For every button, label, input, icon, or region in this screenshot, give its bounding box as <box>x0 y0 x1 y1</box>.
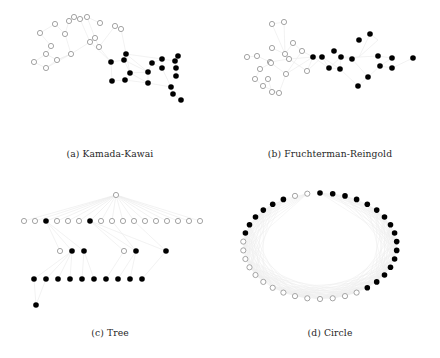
edge-layer <box>24 195 200 305</box>
edge-layer <box>247 22 413 93</box>
circle-svg <box>220 179 440 327</box>
graph-node-open <box>261 279 266 284</box>
graph-node-filled <box>374 279 380 285</box>
subfigure-kamada-kawai: (a) Kamada-Kawai <box>0 0 220 179</box>
filled-node-group <box>108 51 184 103</box>
plot-kamada-kawai <box>0 0 220 148</box>
subfigure-circle: (d) Circle <box>220 179 440 358</box>
subfigure-tree: (c) Tree <box>0 179 220 358</box>
graph-node-filled <box>247 222 253 228</box>
graph-node-filled <box>365 201 371 207</box>
graph-node-open <box>305 191 310 196</box>
caption-circle: (d) Circle <box>308 327 353 338</box>
graph-node-filled <box>253 214 259 220</box>
caption-tree: (c) Tree <box>91 327 128 338</box>
graph-node-open <box>243 256 248 261</box>
plot-fruchterman-reingold <box>220 0 440 148</box>
graph-node-filled <box>281 197 287 203</box>
kamada-kawai-svg <box>0 0 220 148</box>
graph-node-open <box>292 294 297 299</box>
graph-node-filled <box>270 201 276 207</box>
graph-node-filled <box>382 272 388 278</box>
graph-node-open <box>292 193 297 198</box>
tree-svg <box>0 179 220 327</box>
graph-node-filled <box>392 230 398 236</box>
graph-node-open <box>270 285 275 290</box>
graph-node-open <box>305 296 310 301</box>
caption-kamada-kawai: (a) Kamada-Kawai <box>67 148 154 159</box>
graph-node-filled <box>342 193 348 199</box>
fruchterman-reingold-svg <box>220 0 440 148</box>
graph-node-filled <box>374 207 380 213</box>
edge-layer <box>243 193 396 299</box>
filled-node-group <box>31 218 169 308</box>
graph-node-filled <box>394 248 400 254</box>
graph-node-open <box>342 294 347 299</box>
graph-node-open <box>281 290 286 295</box>
graph-node-open <box>253 272 258 277</box>
graph-node-filled <box>261 207 267 213</box>
graph-node-open <box>247 265 252 270</box>
graph-node-filled <box>243 230 249 236</box>
graph-node-filled <box>388 222 394 228</box>
graph-node-open <box>330 296 335 301</box>
graph-node-filled <box>382 214 388 220</box>
graph-node-open <box>354 290 359 295</box>
graph-node-filled <box>330 191 336 197</box>
graph-node-open <box>241 248 246 253</box>
graph-node-filled <box>365 285 371 291</box>
subfigure-fruchterman-reingold: (b) Fruchterman-Reingold <box>220 0 440 179</box>
graph-node-open <box>241 239 246 244</box>
graph-node-filled <box>354 197 360 203</box>
graph-node-filled <box>392 256 398 262</box>
graph-node-open <box>317 296 322 301</box>
plot-tree <box>0 179 220 327</box>
graph-node-filled <box>317 190 323 196</box>
caption-fruchterman-reingold: (b) Fruchterman-Reingold <box>268 148 392 159</box>
graph-node-filled <box>394 239 400 245</box>
open-node-group <box>244 19 309 95</box>
graph-node-filled <box>388 265 394 271</box>
plot-circle <box>220 179 440 327</box>
figure-grid: (a) Kamada-Kawai <box>0 0 440 358</box>
